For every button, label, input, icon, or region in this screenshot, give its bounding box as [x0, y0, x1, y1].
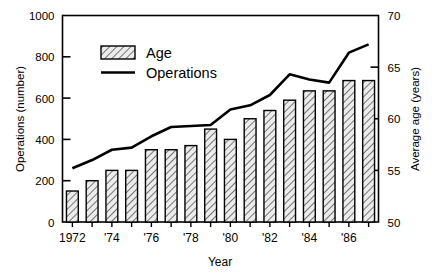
bar — [323, 91, 335, 222]
bar — [126, 170, 138, 222]
chart-legend: Age Operations — [101, 45, 217, 81]
bar — [303, 91, 315, 222]
bar — [145, 150, 157, 222]
left-tick-label: 200 — [35, 175, 54, 187]
right-tick-label: 60 — [388, 113, 401, 125]
y2-axis-title: Average age (years) — [409, 67, 421, 171]
x-tick-label: '76 — [144, 231, 160, 245]
bar — [224, 139, 236, 222]
bar — [66, 191, 78, 222]
operations-age-combo-chart: 02004006008001000 5055606570 1972'74'76'… — [0, 0, 442, 276]
x-tick-label: 1972 — [59, 231, 86, 245]
x-tick-label: '80 — [223, 231, 239, 245]
bar — [86, 181, 98, 222]
y-axis-title: Operations (number) — [14, 66, 26, 172]
legend-label-operations: Operations — [146, 65, 217, 81]
right-tick-label: 50 — [388, 217, 401, 229]
x-tick-label: '74 — [104, 231, 120, 245]
x-tick-label: '84 — [302, 231, 318, 245]
bar-series-age — [66, 81, 374, 222]
bar — [106, 170, 118, 222]
right-tick-label: 55 — [388, 165, 401, 177]
left-tick-label: 600 — [35, 93, 54, 105]
legend-swatch-age-icon — [101, 46, 135, 59]
left-tick-label: 800 — [35, 51, 54, 63]
left-axis-ticks: 02004006008001000 — [29, 10, 71, 229]
x-axis-ticks: 1972'74'76'78'80'82'84'86 — [59, 222, 369, 245]
legend-label-age: Age — [146, 45, 172, 61]
bar — [284, 100, 296, 222]
left-tick-label: 0 — [48, 217, 54, 229]
bar — [165, 150, 177, 222]
bar — [363, 81, 375, 222]
bar — [343, 81, 355, 222]
bar — [205, 129, 217, 222]
right-tick-label: 70 — [388, 10, 401, 22]
x-axis-title: Year — [208, 255, 232, 269]
x-tick-label: '78 — [183, 231, 199, 245]
chart-figure: 02004006008001000 5055606570 1972'74'76'… — [0, 0, 442, 276]
bar — [264, 110, 276, 222]
bar — [244, 119, 256, 222]
x-tick-label: '86 — [341, 231, 357, 245]
right-tick-label: 65 — [388, 62, 401, 74]
left-tick-label: 1000 — [29, 10, 55, 22]
bar — [185, 146, 197, 222]
left-tick-label: 400 — [35, 134, 54, 146]
x-tick-label: '82 — [262, 231, 278, 245]
